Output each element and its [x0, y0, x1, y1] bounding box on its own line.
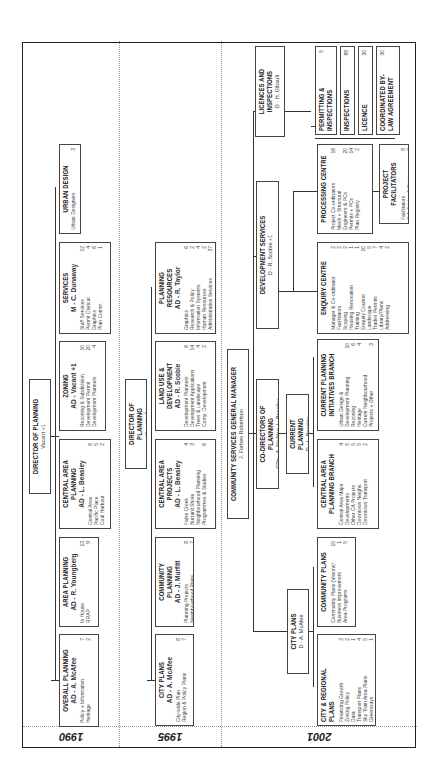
staff-row: Subdivision & Strata3	[406, 148, 409, 220]
city-plans-2001: CITY PLANS D - A. McAfee	[287, 589, 309, 674]
staff-row: Programmes & Studies6	[201, 443, 207, 525]
band-separator	[221, 41, 222, 747]
box-title: DEVELOPMENT SERVICES	[259, 196, 267, 315]
staff-row: Greenways1	[368, 638, 374, 722]
unit-services: SERVICES M - C. Dunaway Staff Services12…	[59, 242, 111, 334]
box-sub: D - H. Gibault	[274, 50, 281, 133]
box-title: CITY PLANS	[290, 599, 298, 664]
box-title: URBAN DESIGN	[62, 154, 70, 224]
box-title: COORDINATED BY-LAW AGREEMENT	[379, 72, 395, 132]
box-title: CITY PLANS	[158, 644, 166, 715]
year-label-1995: 1995	[119, 727, 221, 747]
box-title: LAND USE & DEVELOPMENT	[158, 351, 174, 421]
staff-row: Urban Designers3	[70, 148, 76, 230]
box-title: SERVICES	[62, 252, 70, 323]
connector	[293, 191, 317, 192]
director-1995: DIRECTOR OF PLANNING Vacant +3	[125, 379, 147, 469]
unit-planning-resources: PLANNING RESOURCES AD - R. Taylor Graphi…	[155, 242, 216, 334]
connector	[313, 567, 314, 687]
unit-city-regional-plans: CITY & REGIONAL PLANS Financing Growth3 …	[317, 634, 376, 726]
box-title: CENTRAL AREA PROJECTS	[158, 449, 174, 519]
connector	[279, 433, 286, 434]
box-sub: J. Forbes Robertson	[238, 353, 245, 515]
unit-community-planning: COMMUNITY PLANNING AD - J. Murfitt Plann…	[155, 537, 194, 627]
connector	[253, 112, 254, 632]
year-text: 1990	[59, 731, 83, 743]
staff-row: Comp. Development2	[201, 345, 207, 427]
box-lead: AD - L. Beasley	[78, 443, 85, 525]
staff-row: Coal Harbour2	[99, 443, 105, 525]
box-lead: AD - L. Beasley	[174, 443, 181, 525]
unit-coordinated-bylaw: COORDINATED BY-LAW AGREEMENT30	[376, 46, 400, 135]
box-title: PROCESSING CENTRE	[320, 154, 328, 224]
box-title: ENQUIRY CENTRE	[320, 252, 328, 323]
co-directors-of-planning: CO-DIRECTORS OF PLANNING CDs - A. McAfee…	[256, 379, 279, 489]
staff-row: Plan Registry2	[354, 148, 360, 230]
box-title: CENTRAL AREA PLANNING BRANCH	[320, 449, 336, 519]
box-title: LICENCE	[361, 104, 369, 131]
box-title: DIRECTOR OF PLANNING	[32, 391, 40, 482]
connector	[55, 187, 56, 681]
connector	[313, 357, 314, 487]
connector	[285, 111, 311, 112]
box-lead: AD - R. Taylor	[174, 246, 181, 330]
box-title: COMMUNITY SERVICES GENERAL MANAGER	[230, 365, 238, 503]
box-title: CITY & REGIONAL PLANS	[320, 651, 336, 722]
staff-count: 5	[318, 50, 324, 55]
connector	[293, 192, 294, 292]
unit-central-area-projects: CENTRAL AREA PROJECTS AD - L. Beasley Fa…	[155, 439, 216, 529]
staff-row: Neighbourhood Plans7	[189, 541, 194, 623]
box-sub: D - R. Scobie +1	[267, 185, 274, 325]
staff-row: Administrative Services37	[207, 246, 213, 330]
box-title: COMMUNITY PLANS	[320, 547, 328, 617]
connector	[151, 287, 152, 681]
box-title: LICENCES AND INSPECTIONS	[258, 56, 274, 127]
licences-and-inspections: LICENCES AND INSPECTIONS D - H. Gibault	[255, 46, 285, 137]
current-planning-2001: CURRENT PLANNING D - L. Beasley	[286, 394, 309, 474]
box-lead: AD - R. Scobie	[174, 345, 181, 427]
year-label-1990: 1990	[23, 727, 119, 747]
box-sub: Vacant +3	[144, 383, 147, 465]
unit-land-use-development: LAND USE & DEVELOPMENT AD - R. Scobie De…	[155, 341, 216, 431]
staff-row: Projects + Other3	[368, 343, 374, 427]
unit-city-plans-1995: CITY PLANS AD - A. McAfee City-wide Plan…	[155, 634, 194, 726]
unit-area-planning: AREA PLANNING AD - R. Youngberg In House…	[59, 537, 99, 627]
box-title: AREA PLANNING	[62, 547, 70, 617]
box-title: ZONING	[62, 351, 70, 421]
unit-processing-centre: PROCESSING CENTRE Project Co-ordinators1…	[317, 144, 373, 234]
box-title: CENTRAL AREA PLANNING	[62, 449, 78, 519]
box-sub: D - A. McAfee	[298, 593, 305, 670]
box-lead: AD - A. McAfee	[166, 638, 173, 722]
box-title: COMMUNITY PLANNING	[158, 547, 174, 617]
community-services-gm: COMMUNITY SERVICES GENERAL MANAGER J. Fo…	[227, 349, 249, 519]
director-1990: DIRECTOR OF PLANNING Vacant +1	[29, 379, 51, 494]
unit-permitting-inspections: PERMITTING & INSPECTIONS5	[315, 46, 337, 135]
connector	[315, 138, 395, 139]
staff-row: Development Planners4	[91, 345, 97, 427]
unit-zoning: ZONING AD - Vacant +1 Rezoning & Subdivi…	[59, 341, 106, 431]
staff-count: 30	[379, 50, 385, 58]
box-title: CO-DIRECTORS OF PLANNING	[259, 391, 275, 478]
org-chart-page: 1990 1995 2001 DIRECTOR OF PLANNING Vaca…	[22, 42, 416, 748]
staff-row: Heritage2	[85, 638, 91, 723]
staff-row: Plan Comm.1	[97, 246, 103, 330]
box-sub: Vacant +1	[40, 383, 47, 490]
staff-count: 30	[361, 50, 367, 58]
year-label-2001: 2001	[221, 727, 417, 747]
unit-project-facilitators: PROJECT FACILITATORS Facilitators8 Subdi…	[379, 144, 409, 224]
box-title: CURRENT PLANNING	[289, 403, 305, 464]
unit-current-planning-initiatives: CURRENT PLANNING INITIATIVES BRANCH Urba…	[317, 339, 379, 431]
box-title: PERMITTING & INSPECTIONS	[318, 80, 334, 131]
unit-urban-design: URBAN DESIGN Urban Designers3	[59, 144, 81, 234]
year-text: 1995	[158, 731, 182, 743]
unit-central-area-planning-branch: CENTRAL AREA PLANNING BRANCH Central Are…	[317, 439, 379, 529]
connector	[253, 631, 287, 632]
connector	[309, 631, 313, 632]
box-lead: M - C. Dunaway	[70, 246, 77, 330]
staff-row: Addressing2	[384, 246, 390, 330]
staff-row: Area Programs5	[342, 541, 348, 623]
box-title: CURRENT PLANNING INITIATIVES BRANCH	[320, 349, 336, 420]
year-text: 2001	[307, 731, 331, 743]
unit-inspections: INSPECTIONS89	[340, 46, 355, 135]
band-separator	[119, 41, 120, 747]
